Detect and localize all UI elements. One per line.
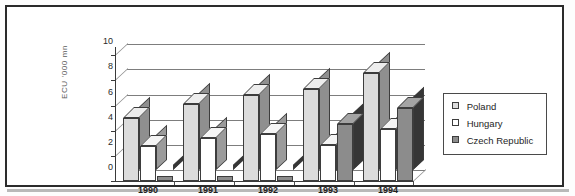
x-tickmark-1 xyxy=(174,181,175,185)
bar-czech-1992 xyxy=(277,176,293,181)
bar-front xyxy=(260,134,276,181)
legend-item-czech: Czech Republic xyxy=(452,135,533,151)
bar-front xyxy=(140,146,156,181)
x-tickmark-5 xyxy=(413,181,414,185)
bar-poland-1994 xyxy=(363,73,379,181)
gridline-back-10 xyxy=(127,44,425,45)
bar-front xyxy=(337,124,353,181)
bar-chart: ECU '000 mn 10 8 6 4 2 0 xyxy=(25,19,435,184)
bar-hungary-1993 xyxy=(320,145,336,182)
bar-poland-1990 xyxy=(123,118,139,181)
x-axis-label-1991: 1991 xyxy=(188,185,228,195)
legend-swatch-hungary xyxy=(452,119,459,126)
y-tickmark-6 xyxy=(111,106,115,107)
y-tickmark-4 xyxy=(111,131,115,132)
legend-label-poland: Poland xyxy=(467,101,497,112)
bar-czech-1991 xyxy=(217,176,233,181)
bar-czech-1994 xyxy=(397,108,413,181)
depth-line-6 xyxy=(115,94,128,107)
bar-front xyxy=(157,176,173,181)
bar-hungary-1994 xyxy=(380,129,396,181)
legend-swatch-czech xyxy=(452,136,459,143)
legend-item-poland: Poland xyxy=(452,101,496,117)
bar-front xyxy=(397,108,413,181)
bar-front xyxy=(303,89,319,181)
y-tick-label-0: 0 xyxy=(91,162,113,172)
x-axis-label-1992: 1992 xyxy=(248,185,288,195)
y-axis-line xyxy=(115,47,116,181)
y-tickmark-10 xyxy=(111,55,115,56)
bar-front xyxy=(123,118,139,181)
bar-poland-1991 xyxy=(183,104,199,181)
x-axis-line xyxy=(115,181,414,182)
bar-hungary-1992 xyxy=(260,134,276,181)
bar-front xyxy=(200,138,216,181)
bar-front xyxy=(277,176,293,181)
y-tick-label-10: 10 xyxy=(91,36,113,46)
chart-legend: Poland Hungary Czech Republic xyxy=(443,93,547,155)
figure-border: ECU '000 mn 10 8 6 4 2 0 xyxy=(5,5,564,187)
x-tickmark-4 xyxy=(354,181,355,185)
plot-area xyxy=(115,33,425,181)
legend-label-czech: Czech Republic xyxy=(467,135,534,146)
x-tickmark-3 xyxy=(294,181,295,185)
y-tick-label-6: 6 xyxy=(91,87,113,97)
y-tick-label-2: 2 xyxy=(91,137,113,147)
frame-drop-shadow xyxy=(7,189,569,192)
scanned-figure-frame: ECU '000 mn 10 8 6 4 2 0 xyxy=(0,0,575,196)
bar-front xyxy=(320,145,336,182)
bar-side xyxy=(216,117,227,170)
bar-front xyxy=(243,95,259,181)
bar-poland-1992 xyxy=(243,95,259,181)
bar-front xyxy=(363,73,379,181)
bar-poland-1993 xyxy=(303,89,319,181)
bar-czech-1990 xyxy=(157,176,173,181)
legend-item-hungary: Hungary xyxy=(452,118,503,134)
x-tickmark-2 xyxy=(234,181,235,185)
x-axis-label-1990: 1990 xyxy=(128,185,168,195)
depth-line-8 xyxy=(115,68,128,81)
y-tickmark-8 xyxy=(111,80,115,81)
y-tick-label-4: 4 xyxy=(91,112,113,122)
x-axis-label-1994: 1994 xyxy=(368,185,408,195)
bar-side xyxy=(156,124,167,170)
legend-swatch-poland xyxy=(452,102,459,109)
legend-label-hungary: Hungary xyxy=(467,118,503,129)
bar-front xyxy=(217,176,233,181)
bar-hungary-1991 xyxy=(200,138,216,181)
bar-czech-1993 xyxy=(337,124,353,181)
depth-line-10 xyxy=(115,43,128,56)
bar-front xyxy=(183,104,199,181)
y-axis-title: ECU '000 mn xyxy=(60,24,74,120)
bar-front xyxy=(380,129,396,181)
y-tick-label-8: 8 xyxy=(91,61,113,71)
bar-hungary-1990 xyxy=(140,146,156,181)
x-axis-label-1993: 1993 xyxy=(308,185,348,195)
y-tickmark-2 xyxy=(111,156,115,157)
bar-side xyxy=(276,113,287,170)
